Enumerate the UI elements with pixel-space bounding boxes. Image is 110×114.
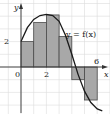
x-tick-label-6: 6	[94, 57, 99, 66]
x-axis-label: x	[104, 70, 109, 79]
x-tick-label-0: 0	[15, 70, 20, 79]
riemann-rectangle	[21, 42, 34, 67]
riemann-rectangle	[59, 37, 72, 67]
riemann-rectangle	[34, 23, 47, 67]
y-tick-label-2: 2	[4, 37, 9, 46]
riemann-rectangle	[46, 15, 59, 67]
x-axis-arrow-icon	[102, 65, 108, 69]
x-tick-label-2: 2	[44, 70, 49, 79]
curve-label: y = f(x)	[65, 30, 96, 39]
riemann-sum-chart: y x 2 0 2 6 y = f(x)	[0, 0, 110, 114]
y-axis-arrow-icon	[19, 3, 23, 9]
y-axis-label: y	[13, 3, 19, 12]
